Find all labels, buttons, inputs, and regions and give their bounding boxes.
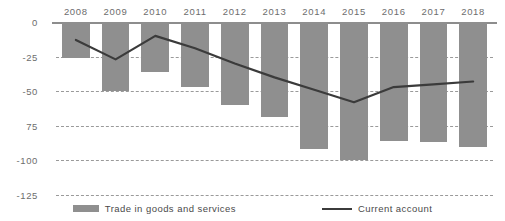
gridline: [56, 160, 493, 161]
x-axis-tick-label-2011: 2011: [183, 6, 206, 17]
bar-2009: [102, 22, 130, 91]
legend-bar-swatch-icon: [73, 205, 99, 212]
x-axis-tick-label-2016: 2016: [382, 6, 406, 17]
bar-2012: [221, 22, 249, 105]
legend-item-trade-in-goods-and-services: Trade in goods and services: [73, 203, 236, 214]
y-axis-tick-label: 75: [0, 120, 38, 131]
x-axis-tick-label-2017: 2017: [421, 6, 445, 17]
legend-label-current-account: Current account: [358, 203, 432, 214]
bar-2011: [181, 22, 209, 87]
bar-2008: [62, 22, 90, 58]
x-axis-tick-label-2009: 2009: [104, 6, 128, 17]
x-axis-tick-label-2015: 2015: [342, 6, 366, 17]
legend-item-current-account: Current account: [322, 203, 432, 214]
x-axis-tick-label-2010: 2010: [143, 6, 167, 17]
x-axis-tick-label-2013: 2013: [263, 6, 287, 17]
plot-area: 0-25-5075-100-125 2008200920102011201220…: [56, 22, 493, 195]
x-axis-tick-label-2008: 2008: [64, 6, 88, 17]
bar-2017: [420, 22, 448, 142]
x-axis-tick-label-2018: 2018: [461, 6, 485, 17]
x-axis-tick-label-2012: 2012: [223, 6, 247, 17]
chart-container: 0-25-5075-100-125 2008200920102011201220…: [0, 0, 505, 221]
y-axis-tick-label: -100: [0, 155, 38, 166]
y-axis-tick-label: -25: [0, 51, 38, 62]
bar-2010: [141, 22, 169, 72]
bar-2015: [340, 22, 368, 160]
legend-label-trade-in-goods-and-services: Trade in goods and services: [105, 203, 236, 214]
y-axis-tick-label: -50: [0, 86, 38, 97]
x-axis-tick-label-2014: 2014: [302, 6, 326, 17]
legend-line-swatch-icon: [322, 208, 352, 210]
bar-2014: [300, 22, 328, 149]
bar-2018: [459, 22, 487, 147]
bar-2013: [261, 22, 289, 117]
y-axis-tick-label: 0: [0, 17, 38, 28]
bar-2016: [380, 22, 408, 141]
chart-legend: Trade in goods and services Current acco…: [0, 196, 505, 221]
